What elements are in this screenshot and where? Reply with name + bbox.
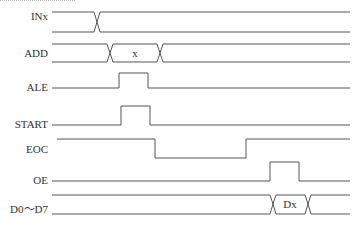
waveform-inx [52,12,350,32]
timing-waveforms: x Dx [0,0,360,228]
waveform-ale [52,73,350,88]
waveform-add: x [52,44,350,62]
waveform-start [52,106,350,125]
data-value-text: Dx [283,198,297,210]
add-value-text: x [132,47,138,59]
waveform-oe [52,162,350,181]
waveform-data: Dx [52,195,350,214]
waveform-eoc [57,139,350,158]
